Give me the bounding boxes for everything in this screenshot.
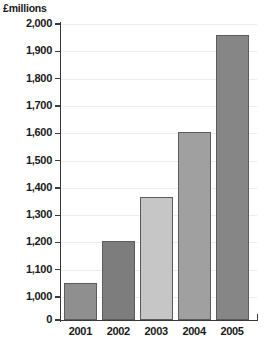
x-tick-label: 2001: [60, 325, 100, 337]
y-tick-mark: [55, 51, 61, 52]
y-tick-mark: [55, 269, 61, 270]
x-tick-label: 2002: [98, 325, 138, 337]
y-tick-mark: [55, 215, 61, 216]
y-tick-label: 1,500: [0, 155, 52, 166]
y-axis-unit-label: £millions: [3, 2, 47, 14]
x-tick-label: 2005: [212, 325, 252, 337]
y-tick-label: 1,000: [0, 291, 52, 302]
y-tick-label: 0: [0, 314, 52, 325]
bar-2003: [140, 197, 173, 320]
y-tick-label: 1,300: [0, 209, 52, 220]
y-tick-mark: [55, 78, 61, 79]
y-tick-label: 1,200: [0, 236, 52, 247]
y-tick-mark: [55, 319, 61, 320]
x-tick-label: 2003: [136, 325, 176, 337]
y-tick-mark: [55, 105, 61, 106]
y-axis-line: [60, 22, 61, 322]
y-tick-mark: [55, 242, 61, 243]
bar-2002: [102, 241, 135, 320]
x-axis-line: [60, 320, 258, 321]
y-tick-mark: [55, 23, 61, 24]
gridline: [61, 24, 257, 25]
x-axis-end-tick: [257, 314, 258, 321]
x-tick-label: 2004: [174, 325, 214, 337]
y-tick-label: 1,100: [0, 264, 52, 275]
bar-chart: £millions 2,0001,9001,8001,7001,6001,500…: [0, 0, 265, 346]
y-tick-mark: [55, 133, 61, 134]
y-tick-label: 1,700: [0, 100, 52, 111]
y-tick-label: 1,400: [0, 182, 52, 193]
bar-2001: [64, 283, 97, 320]
bar-2005: [216, 35, 249, 320]
y-tick-mark: [55, 187, 61, 188]
y-tick-label: 1,600: [0, 127, 52, 138]
y-tick-mark: [55, 160, 61, 161]
y-tick-label: 1,900: [0, 45, 52, 56]
y-tick-label: 1,800: [0, 73, 52, 84]
y-tick-label: 2,000: [0, 18, 52, 29]
bar-2004: [178, 132, 211, 320]
y-tick-mark: [55, 296, 61, 297]
